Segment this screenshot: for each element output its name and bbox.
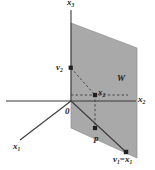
point-label-v2: v2 [56, 63, 63, 72]
point-label-v1-equals-x1: v1=x1 [113, 155, 132, 164]
axis-label-x2: x2 [138, 95, 145, 104]
point-label-p: p [94, 134, 99, 143]
point-marker-p [93, 126, 97, 130]
x1-axis-line [20, 101, 71, 140]
axis-label-x3: x3 [67, 0, 74, 7]
figure-canvas [0, 0, 155, 170]
point-marker-x2 [93, 93, 97, 97]
vector-projection-figure: x3 x2 x1 v2 W x2 0 p v1=x1 [0, 0, 155, 170]
axis-label-x1: x1 [13, 142, 20, 151]
point-marker-v2 [69, 66, 73, 70]
subspace-label-w: W [117, 74, 125, 83]
origin-label: 0 [65, 107, 70, 116]
point-label-x2: x2 [98, 88, 105, 97]
